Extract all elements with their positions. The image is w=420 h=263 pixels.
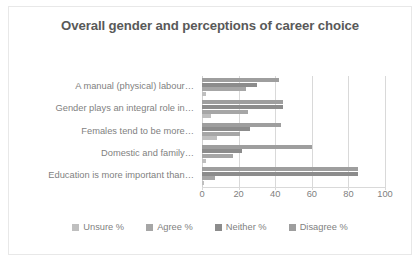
- bar: [202, 114, 211, 118]
- bar-group: [202, 165, 385, 187]
- category-label: Females tend to be more…: [81, 126, 194, 137]
- legend-label: Disagree %: [300, 222, 348, 232]
- x-tick-label-60: 60: [307, 189, 317, 199]
- bar: [202, 127, 250, 131]
- bar: [202, 78, 279, 82]
- bar: [202, 154, 233, 158]
- legend-item[interactable]: Disagree %: [289, 222, 348, 232]
- bar: [202, 105, 283, 109]
- plot-area: [202, 76, 385, 187]
- x-tick-label-0: 0: [199, 189, 204, 199]
- bar: [202, 176, 215, 180]
- legend-item[interactable]: Unsure %: [72, 222, 124, 232]
- bar: [202, 87, 246, 91]
- bar: [202, 110, 248, 114]
- bar: [202, 132, 240, 136]
- legend-item[interactable]: Agree %: [146, 222, 193, 232]
- category-axis-labels: A manual (physical) labour…Gender plays …: [10, 76, 198, 187]
- bar: [202, 92, 206, 96]
- bar: [202, 136, 217, 140]
- gridline-100: [385, 76, 386, 187]
- legend-swatch-icon: [289, 224, 296, 231]
- legend-swatch-icon: [72, 224, 79, 231]
- bar-group: [202, 98, 385, 120]
- category-label: Domestic and family…: [101, 148, 194, 159]
- bar: [202, 145, 312, 149]
- chart-container: Overall gender and perceptions of career…: [0, 0, 420, 263]
- bar-group: [202, 120, 385, 142]
- category-label: Gender plays an integral role in…: [56, 103, 195, 114]
- bar: [202, 159, 206, 163]
- bar: [202, 100, 283, 104]
- category-label: A manual (physical) labour…: [75, 81, 194, 92]
- x-axis-ticks: 020406080100: [202, 189, 386, 203]
- x-tick-label-100: 100: [377, 189, 393, 199]
- x-tick-label-80: 80: [343, 189, 353, 199]
- category-label: Education is more important than…: [48, 170, 194, 181]
- chart-legend: Unsure %Agree %Neither %Disagree %: [8, 222, 412, 232]
- x-tick-label-20: 20: [233, 189, 243, 199]
- legend-item[interactable]: Neither %: [215, 222, 267, 232]
- bar-group: [202, 143, 385, 165]
- legend-label: Agree %: [157, 222, 193, 232]
- chart-title: Overall gender and perceptions of career…: [45, 17, 375, 35]
- legend-label: Unsure %: [83, 222, 124, 232]
- bar: [202, 149, 242, 153]
- legend-swatch-icon: [215, 224, 222, 231]
- bar: [202, 181, 204, 185]
- legend-swatch-icon: [146, 224, 153, 231]
- legend-label: Neither %: [226, 222, 267, 232]
- x-tick-label-40: 40: [270, 189, 280, 199]
- bar-group: [202, 76, 385, 98]
- bar: [202, 172, 358, 176]
- x-axis-line: [202, 187, 386, 188]
- bar: [202, 123, 281, 127]
- bar: [202, 83, 257, 87]
- bar: [202, 167, 358, 171]
